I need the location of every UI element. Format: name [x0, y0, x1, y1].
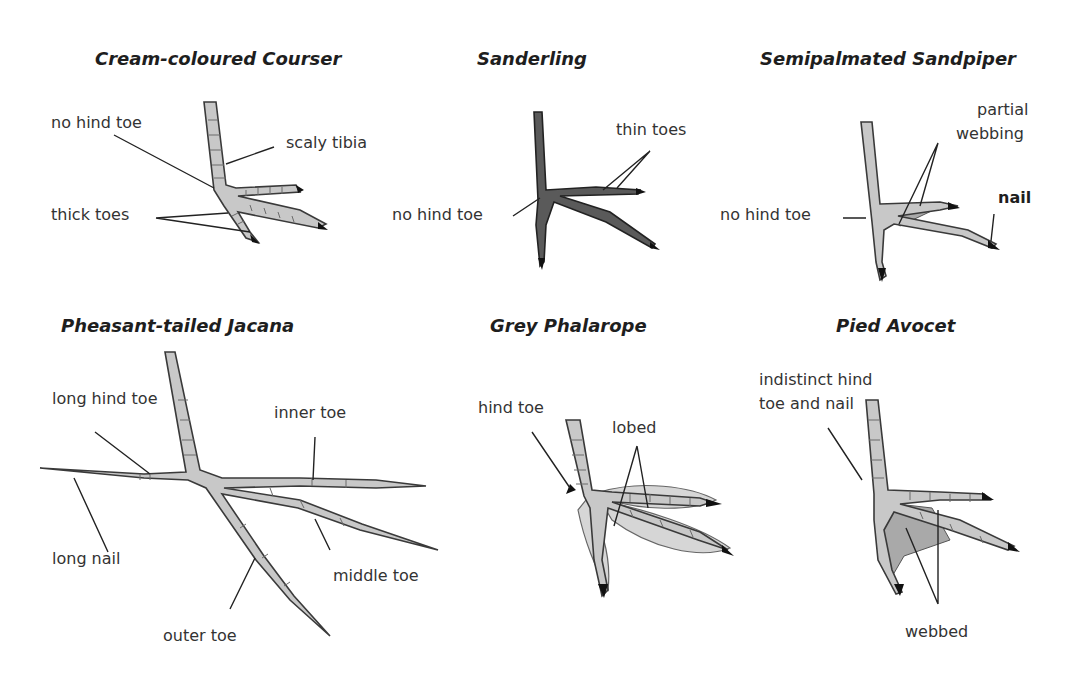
label-nail: nail: [998, 188, 1031, 208]
label-webbing: webbing: [956, 124, 1024, 144]
label-partial: partial: [977, 100, 1029, 120]
label-webbed: webbed: [905, 622, 968, 642]
label-hind-toe: hind toe: [478, 398, 544, 418]
grey-phalarope-foot-illustration: [532, 420, 734, 598]
label-toe-and-nail: toe and nail: [759, 394, 854, 414]
species-title-sanderling: Sanderling: [477, 48, 587, 69]
label-no-hind-toe: no hind toe: [392, 205, 483, 225]
species-title-cream-coloured-courser: Cream-coloured Courser: [95, 48, 341, 69]
label-outer-toe: outer toe: [163, 626, 237, 646]
label-inner-toe: inner toe: [274, 403, 346, 423]
label-no-hind-toe: no hind toe: [720, 205, 811, 225]
label-middle-toe: middle toe: [333, 566, 419, 586]
illustrations: [0, 0, 1081, 684]
species-title-pied-avocet: Pied Avocet: [836, 315, 955, 336]
species-title-semipalmated-sandpiper: Semipalmated Sandpiper: [760, 48, 1016, 69]
species-title-grey-phalarope: Grey Phalarope: [490, 315, 647, 336]
label-lobed: lobed: [612, 418, 656, 438]
label-thin-toes: thin toes: [616, 120, 686, 140]
label-no-hind-toe: no hind toe: [51, 113, 142, 133]
label-thick-toes: thick toes: [51, 205, 129, 225]
species-title-pheasant-tailed-jacana: Pheasant-tailed Jacana: [61, 315, 294, 336]
pied-avocet-foot-illustration: [828, 400, 1020, 604]
label-long-hind-toe: long hind toe: [52, 389, 158, 409]
courser-foot-illustration: [114, 102, 328, 244]
label-long-nail: long nail: [52, 549, 120, 569]
label-indistinct-hind: indistinct hind: [759, 370, 872, 390]
label-scaly-tibia: scaly tibia: [286, 133, 367, 153]
semipalmated-sandpiper-foot-illustration: [843, 122, 1000, 282]
